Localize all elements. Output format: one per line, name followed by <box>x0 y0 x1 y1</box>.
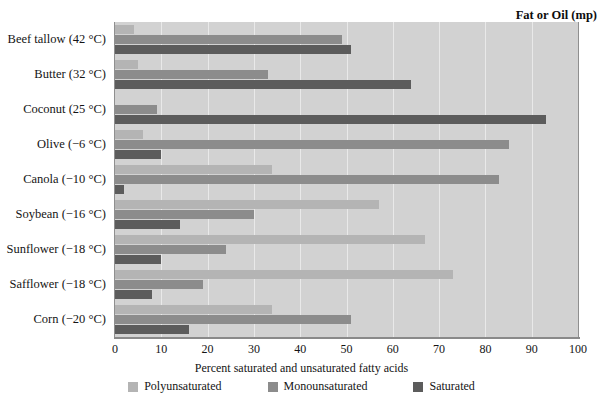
x-tick-label: 10 <box>141 342 181 357</box>
bar-monounsaturated <box>115 280 203 289</box>
fatty-acid-bar-chart: Fat or Oil (mp) Beef tallow (42 °C)Butte… <box>0 0 603 405</box>
bar-polyunsaturated <box>115 270 453 279</box>
legend-item: Monounsaturated <box>268 379 368 394</box>
category-label: Soybean (−16 °C) <box>15 208 106 221</box>
bar-group <box>115 127 578 162</box>
bar-polyunsaturated <box>115 235 425 244</box>
bar-saturated <box>115 290 152 299</box>
category-label: Olive (−6 °C) <box>37 138 106 151</box>
legend-swatch-icon <box>128 382 138 392</box>
bar-monounsaturated <box>115 175 499 184</box>
legend-item: Saturated <box>413 379 474 394</box>
plot-bottom-axis-line <box>114 337 580 339</box>
category-label: Sunflower (−18 °C) <box>6 243 106 256</box>
bar-monounsaturated <box>115 315 351 324</box>
legend-label: Polyunsaturated <box>144 379 221 394</box>
bar-saturated <box>115 115 546 124</box>
x-tick-label: 60 <box>373 342 413 357</box>
bar-group <box>115 22 578 57</box>
bar-monounsaturated <box>115 105 157 114</box>
bar-polyunsaturated <box>115 60 138 69</box>
bar-polyunsaturated <box>115 200 379 209</box>
bar-polyunsaturated <box>115 305 272 314</box>
x-axis-title: Percent saturated and unsaturated fatty … <box>0 361 603 376</box>
bar-polyunsaturated <box>115 165 272 174</box>
plot-area <box>115 22 579 337</box>
bar-saturated <box>115 45 351 54</box>
category-label: Safflower (−18 °C) <box>9 278 106 291</box>
bar-group <box>115 197 578 232</box>
bar-saturated <box>115 80 411 89</box>
bar-group <box>115 162 578 197</box>
legend-swatch-icon <box>413 382 423 392</box>
legend-label: Monounsaturated <box>284 379 368 394</box>
bar-group <box>115 302 578 337</box>
bar-monounsaturated <box>115 70 268 79</box>
bar-saturated <box>115 325 189 334</box>
bar-monounsaturated <box>115 35 342 44</box>
bar-group <box>115 92 578 127</box>
category-label: Coconut (25 °C) <box>23 103 106 116</box>
bar-group <box>115 267 578 302</box>
x-tick-label: 50 <box>327 342 367 357</box>
bar-group <box>115 57 578 92</box>
category-axis-header: Fat or Oil (mp) <box>516 8 597 23</box>
category-label: Canola (−10 °C) <box>23 173 106 186</box>
legend-label: Saturated <box>429 379 474 394</box>
x-tick-label: 90 <box>512 342 552 357</box>
bar-saturated <box>115 220 180 229</box>
bar-monounsaturated <box>115 140 509 149</box>
category-label: Beef tallow (42 °C) <box>8 33 106 46</box>
chart-legend: PolyunsaturatedMonounsaturatedSaturated <box>0 379 603 394</box>
x-tick-label: 30 <box>234 342 274 357</box>
x-tick-label: 40 <box>280 342 320 357</box>
bar-monounsaturated <box>115 210 254 219</box>
legend-swatch-icon <box>268 382 278 392</box>
x-tick-label: 20 <box>188 342 228 357</box>
bar-polyunsaturated <box>115 130 143 139</box>
x-tick-label: 80 <box>465 342 505 357</box>
x-tick-label: 70 <box>419 342 459 357</box>
bar-saturated <box>115 150 161 159</box>
category-label: Butter (32 °C) <box>34 68 106 81</box>
bar-group <box>115 232 578 267</box>
legend-item: Polyunsaturated <box>128 379 221 394</box>
x-tick-label: 0 <box>95 342 135 357</box>
bar-polyunsaturated <box>115 25 134 34</box>
bar-saturated <box>115 185 124 194</box>
bar-monounsaturated <box>115 245 226 254</box>
x-tick-label: 100 <box>558 342 598 357</box>
category-label: Corn (−20 °C) <box>34 313 106 326</box>
bar-saturated <box>115 255 161 264</box>
